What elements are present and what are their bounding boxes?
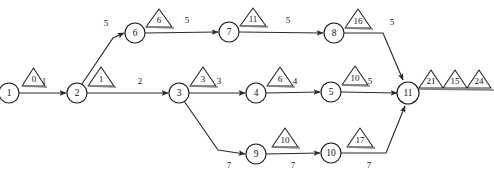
- triangle-label-n11-b: 15: [451, 76, 461, 86]
- node-10[interactable]: 10: [321, 143, 341, 163]
- triangle-marker-n11-b: 15: [443, 70, 467, 88]
- edge-weight-n5-n11: 5: [368, 76, 373, 86]
- node-label-10: 10: [326, 148, 336, 158]
- node-9[interactable]: 9: [246, 144, 266, 164]
- triangle-label-n11-a: 21: [427, 76, 436, 86]
- triangle-label-n3: 3: [201, 74, 206, 84]
- triangle-label-n2: 1: [99, 74, 104, 84]
- edge-weight-n7-n8: 5: [286, 15, 291, 25]
- edge-n10-n11: 7: [341, 106, 405, 170]
- edge-weight-n9-n10: 7: [291, 160, 296, 170]
- triangle-label-n4: 6: [278, 74, 283, 84]
- node-2[interactable]: 2: [67, 83, 87, 103]
- node-label-6: 6: [133, 28, 138, 38]
- node-label-4: 4: [254, 88, 259, 98]
- edge-weight-n8-n11: 5: [390, 17, 395, 27]
- triangle-label-n1: 0: [32, 74, 37, 84]
- node-label-9: 9: [254, 149, 259, 159]
- node-6[interactable]: 6: [125, 23, 145, 43]
- triangle-label-n5: 10: [351, 73, 361, 83]
- triangle-label-n10: 17: [356, 135, 366, 145]
- triangle-marker-n11-a: 21: [419, 70, 443, 88]
- triangle-marker-n10: 17: [347, 128, 375, 148]
- triangle-marker-n9: 10: [272, 128, 300, 148]
- edge-n9-n10: 7: [266, 153, 320, 170]
- node-3[interactable]: 3: [169, 83, 189, 103]
- triangle-label-n11-c: 24: [475, 76, 485, 86]
- node-label-1: 1: [7, 88, 12, 98]
- edge-weight-n4-n5: 4: [293, 76, 298, 86]
- triangle-label-n8: 16: [354, 16, 364, 26]
- node-11[interactable]: 11: [397, 82, 419, 104]
- activity-network-diagram: 1 5 2 5 5: [0, 0, 494, 176]
- triangle-marker-n11-c: 24: [467, 70, 491, 88]
- triangle-marker-n5: 10: [342, 66, 370, 86]
- node-label-8: 8: [332, 28, 337, 38]
- node-7[interactable]: 7: [219, 22, 239, 42]
- network-canvas: 1 5 2 5 5: [0, 0, 494, 176]
- node-label-5: 5: [329, 87, 334, 97]
- node-8[interactable]: 8: [324, 23, 344, 43]
- triangle-marker-n7: 11: [240, 8, 268, 27]
- triangle-label-n9: 10: [281, 135, 291, 145]
- edge-weight-n3-n4: 3: [217, 76, 222, 86]
- node-1[interactable]: 1: [0, 83, 19, 103]
- triangle-marker-n4: 6: [267, 67, 295, 87]
- node-label-2: 2: [75, 88, 80, 98]
- edge-weight-n2-n3: 2: [138, 76, 143, 86]
- triangle-baseline-n11: [417, 89, 494, 90]
- node-5[interactable]: 5: [321, 82, 341, 102]
- node-label-7: 7: [227, 27, 232, 37]
- edge-n3-n9: 7: [184, 101, 245, 170]
- triangles-layer: 0 1 3 6: [22, 8, 494, 148]
- edge-weight-n10-n11: 7: [367, 160, 372, 170]
- edge-weight-n3-n9: 7: [227, 160, 232, 170]
- triangle-marker-n3: 3: [190, 67, 218, 87]
- edge-weight-n2-n6: 5: [104, 18, 109, 28]
- triangle-label-n6: 6: [157, 15, 162, 25]
- triangle-marker-n6: 6: [146, 9, 174, 28]
- edge-weight-n6-n7: 5: [185, 15, 190, 25]
- node-label-11: 11: [403, 88, 412, 98]
- triangle-marker-n8: 16: [345, 9, 373, 29]
- triangle-label-n7: 11: [249, 14, 258, 24]
- triangle-marker-n2: 1: [88, 67, 116, 87]
- node-label-3: 3: [177, 88, 182, 98]
- node-4[interactable]: 4: [246, 83, 266, 103]
